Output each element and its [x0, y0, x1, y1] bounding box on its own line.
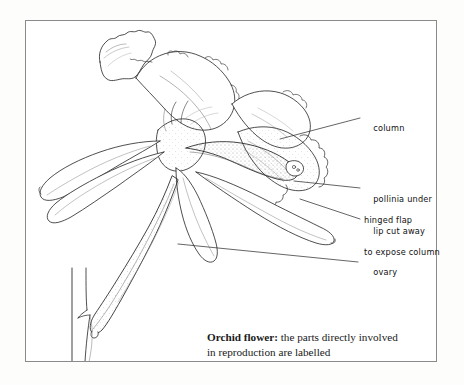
leader-lip	[300, 199, 360, 219]
figure-caption: Orchid flower: the parts directly involv…	[207, 330, 432, 359]
petal-upper-center	[130, 51, 240, 130]
caption-rest: the parts directly involved	[278, 331, 398, 343]
flower-stem	[72, 268, 92, 362]
caption-line2: in reproduction are labelled	[207, 346, 330, 358]
label-pollinia-line1: pollinia under	[373, 194, 432, 204]
label-column-line1: column	[373, 123, 404, 133]
label-lip-line1: lip cut away	[373, 226, 425, 236]
label-column: column	[362, 112, 405, 144]
caption-lead: Orchid flower:	[207, 331, 278, 343]
label-ovary-line1: ovary	[373, 267, 397, 277]
flower-ovary	[90, 176, 179, 338]
figure-page: column pollinia under hinged flap lip cu…	[0, 0, 464, 385]
label-ovary: ovary	[362, 256, 397, 288]
